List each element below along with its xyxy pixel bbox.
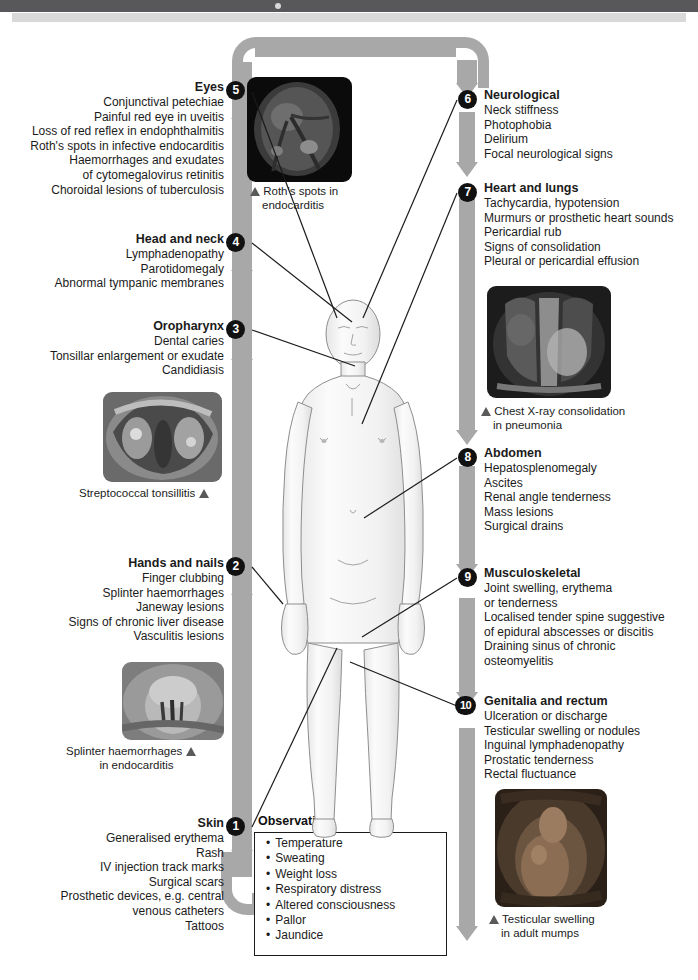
step-number-6: 6: [458, 90, 477, 109]
step-number-8: 8: [458, 448, 477, 467]
step-number-4: 4: [226, 233, 245, 252]
step-number-2: 2: [226, 557, 245, 576]
step-number-10: 10: [455, 696, 476, 715]
step-number-3: 3: [226, 320, 245, 339]
step-number-1: 1: [226, 817, 245, 836]
diagram-page: Roth's spots in endocarditis Streptococc…: [0, 0, 698, 980]
step-number-5: 5: [226, 81, 245, 100]
leader-lines: [0, 0, 698, 980]
step-number-9: 9: [458, 568, 477, 587]
step-number-7: 7: [458, 183, 477, 202]
